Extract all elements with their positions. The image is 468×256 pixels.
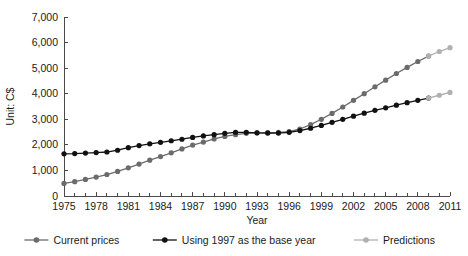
series-current-prices-point <box>329 111 334 116</box>
series-base-year-point <box>351 114 356 119</box>
x-tick-label: 1990 <box>213 200 237 212</box>
series-current-prices-point <box>394 71 399 76</box>
series-base-year-point <box>83 150 88 155</box>
y-tick-label: 2,000 <box>32 138 58 150</box>
series-base-year-line <box>64 98 429 154</box>
series-base-year-point <box>340 117 345 122</box>
series-base-year-point <box>72 151 77 156</box>
series-predictions-current-point <box>426 54 431 59</box>
x-tick-label: 2005 <box>374 200 398 212</box>
series-base-year-point <box>329 120 334 125</box>
series-base-year-point <box>147 141 152 146</box>
x-tick-label: 1996 <box>277 200 301 212</box>
series-current-prices-point <box>372 84 377 89</box>
series-current-prices-point <box>147 158 152 163</box>
y-tick-label: 7,000 <box>32 11 58 23</box>
series-base-year-point <box>319 123 324 128</box>
series-current-prices-point <box>383 78 388 83</box>
series-current-prices-point <box>340 104 345 109</box>
series-base-year-point <box>115 148 120 153</box>
series-base-year-point <box>394 103 399 108</box>
series-current-prices-point <box>158 154 163 159</box>
series-current-prices-point <box>83 177 88 182</box>
legend-label-0: Current prices <box>53 234 119 246</box>
series-current-prices-point <box>201 139 206 144</box>
series-base-year-point <box>276 130 281 135</box>
x-tick-label: 2008 <box>406 200 430 212</box>
series-base-year-point <box>169 138 174 143</box>
chart-container: 01,0002,0003,0004,0005,0006,0007,0001975… <box>0 0 468 256</box>
legend-label-1: Using 1997 as the base year <box>182 234 316 246</box>
series-current-prices-point <box>415 59 420 64</box>
series-base-year-point <box>136 143 141 148</box>
x-tick-label: 1987 <box>181 200 205 212</box>
series-base-year-point <box>190 135 195 140</box>
legend-label-2: Predictions <box>383 234 435 246</box>
series-base-year-point <box>287 130 292 135</box>
x-tick-label: 1993 <box>245 200 269 212</box>
series-base-year-point <box>372 108 377 113</box>
y-axis-title: Unit: C$ <box>4 87 16 125</box>
series-current-prices-point <box>61 181 66 186</box>
line-chart: 01,0002,0003,0004,0005,0006,0007,0001975… <box>0 0 468 256</box>
series-current-prices-point <box>126 165 131 170</box>
series-base-year-point <box>383 105 388 110</box>
series-current-prices-point <box>405 65 410 70</box>
series-predictions-base-point <box>447 90 452 95</box>
series-base-year-point <box>297 128 302 133</box>
y-tick-label: 6,000 <box>32 36 58 48</box>
y-tick-label: 3,000 <box>32 113 58 125</box>
series-current-prices-point <box>351 98 356 103</box>
x-tick-label: 1975 <box>52 200 76 212</box>
series-current-prices-point <box>136 161 141 166</box>
x-tick-label: 1984 <box>149 200 173 212</box>
series-current-prices-point <box>104 172 109 177</box>
series-current-prices-line <box>64 56 429 183</box>
x-axis-title: Year <box>246 214 268 226</box>
legend-marker-0 <box>34 237 40 243</box>
series-base-year-point <box>405 100 410 105</box>
series-base-year-point <box>94 150 99 155</box>
series-base-year-point <box>415 98 420 103</box>
series-current-prices-point <box>362 91 367 96</box>
y-tick-label: 4,000 <box>32 87 58 99</box>
series-base-year-point <box>308 126 313 131</box>
series-base-year-point <box>61 151 66 156</box>
series-predictions-current-point <box>447 45 452 50</box>
x-tick-label: 2002 <box>342 200 366 212</box>
legend-marker-1 <box>162 237 168 243</box>
legend-marker-2 <box>363 237 369 243</box>
series-base-year-point <box>126 145 131 150</box>
series-base-year-point <box>222 131 227 136</box>
series-predictions-base-point <box>426 95 431 100</box>
series-base-year-point <box>212 132 217 137</box>
y-tick-label: 5,000 <box>32 62 58 74</box>
series-current-prices-point <box>190 143 195 148</box>
series-current-prices-point <box>169 150 174 155</box>
x-tick-label: 1999 <box>310 200 334 212</box>
series-current-prices-point <box>115 169 120 174</box>
series-predictions-base-point <box>437 93 442 98</box>
x-tick-label: 1978 <box>84 200 108 212</box>
series-base-year-point <box>233 130 238 135</box>
series-base-year-point <box>179 137 184 142</box>
series-base-year-point <box>201 133 206 138</box>
series-current-prices-point <box>179 146 184 151</box>
x-tick-label: 1981 <box>117 200 141 212</box>
series-predictions-current-point <box>437 49 442 54</box>
series-current-prices-point <box>319 117 324 122</box>
series-base-year-point <box>104 149 109 154</box>
x-tick-label: 2011 <box>439 200 462 212</box>
series-base-year-point <box>254 130 259 135</box>
series-current-prices-point <box>72 179 77 184</box>
series-base-year-point <box>244 130 249 135</box>
series-base-year-point <box>362 111 367 116</box>
series-current-prices-point <box>94 174 99 179</box>
y-tick-label: 1,000 <box>32 164 58 176</box>
series-base-year-point <box>265 130 270 135</box>
series-base-year-point <box>158 140 163 145</box>
